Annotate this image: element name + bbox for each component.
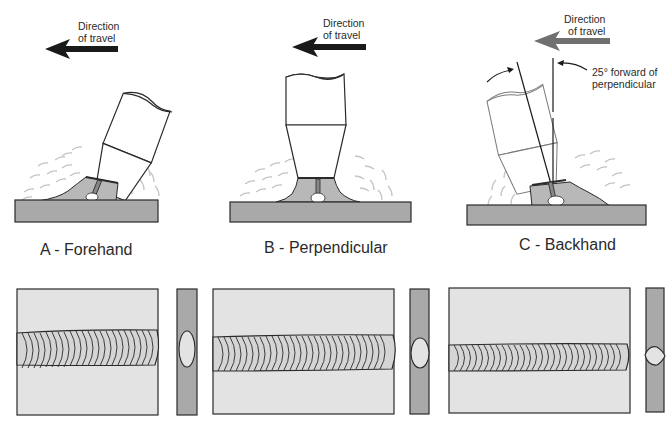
angle-annotation-line1: 25° forward of	[592, 66, 657, 78]
bead-view-b	[213, 289, 429, 414]
panel-b-perpendicular	[230, 37, 411, 222]
direction-label-line1: Direction	[78, 20, 119, 32]
bead-view-c	[449, 288, 665, 413]
panel-label-b: B - Perpendicular	[264, 239, 388, 257]
angle-annotation-line2: perpendicular	[592, 78, 657, 90]
direction-label-line2: of travel	[78, 32, 119, 44]
torch-nozzle	[286, 74, 346, 178]
torch-nozzle	[486, 84, 566, 196]
base-plate	[467, 205, 646, 225]
direction-label-line1: Direction	[323, 17, 364, 29]
base-plate	[15, 200, 158, 222]
bead-view-a	[17, 289, 197, 415]
direction-label-b: Direction of travel	[323, 17, 364, 41]
direction-label-line2: of travel	[323, 29, 364, 41]
panel-label-c: C - Backhand	[519, 236, 616, 254]
base-plate	[230, 202, 411, 222]
panel-label-a: A - Forehand	[40, 241, 133, 259]
direction-label-a: Direction of travel	[78, 20, 119, 44]
panel-c-backhand	[467, 31, 646, 225]
direction-label-line1: Direction	[564, 13, 605, 25]
angle-annotation: 25° forward of perpendicular	[592, 66, 657, 90]
direction-label-c: Direction of travel	[564, 13, 605, 37]
direction-label-line2: of travel	[564, 25, 605, 37]
welding-torch-angle-diagram	[0, 0, 671, 428]
panel-a-forehand	[15, 39, 174, 222]
